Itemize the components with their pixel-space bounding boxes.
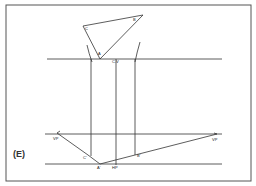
perspective-line <box>135 134 217 155</box>
label-c-prime: C' <box>83 156 87 160</box>
label-plan-a: A <box>98 52 101 56</box>
label-vp-right: VP <box>212 138 217 142</box>
label-plan-b: B <box>133 18 136 22</box>
label-b-prime: B' <box>137 154 140 158</box>
construction-arc <box>87 45 92 62</box>
label-plan-c: C <box>85 27 88 31</box>
perspective-line <box>100 155 135 164</box>
vp-left-marker <box>57 131 60 133</box>
perspective-diagram <box>0 0 256 186</box>
label-a-prime: A' <box>97 166 100 170</box>
panel-label: (E) <box>13 150 25 159</box>
label-hp: HP <box>112 166 118 170</box>
label-vp-left: VP <box>53 137 58 141</box>
perspective-line <box>88 155 100 164</box>
label-center-of-vision: C.V <box>112 60 119 64</box>
figure-frame <box>6 5 251 181</box>
perspective-line <box>57 133 88 155</box>
